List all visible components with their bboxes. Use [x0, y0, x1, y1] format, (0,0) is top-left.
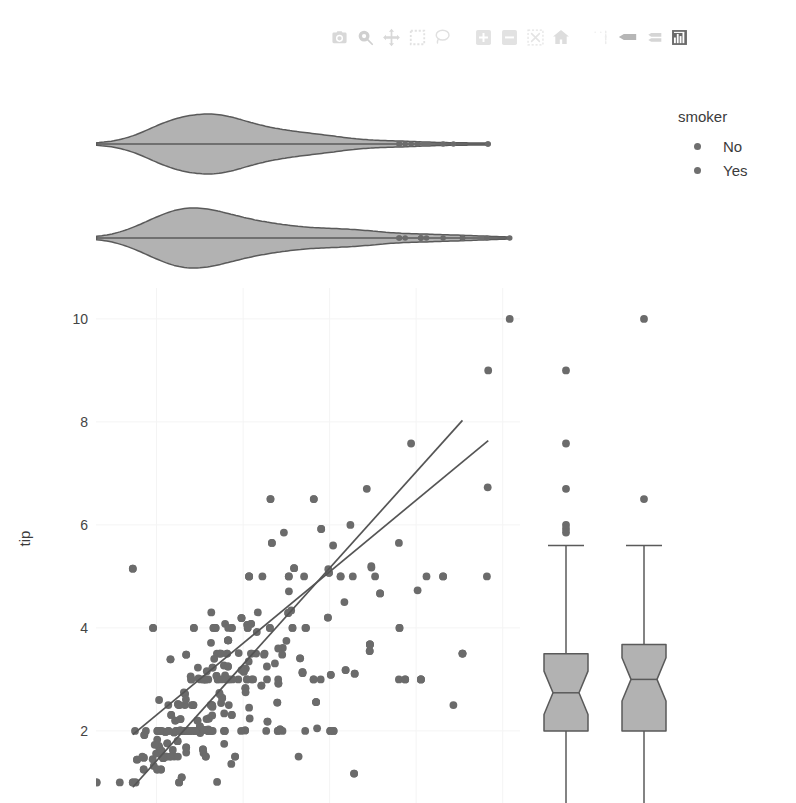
scatter-point [140, 731, 148, 739]
scatter-point [342, 666, 350, 674]
scatter-point [301, 727, 309, 735]
box-select-icon[interactable] [404, 24, 430, 50]
scatter-point [271, 660, 279, 668]
scatter-point [263, 676, 271, 684]
violin-outlier [440, 235, 446, 241]
pan-icon[interactable] [378, 24, 404, 50]
box-svg [526, 288, 686, 803]
reset-axes-icon[interactable] [548, 24, 574, 50]
scatter-point [324, 614, 332, 622]
scatter-point [228, 711, 236, 719]
scatter-point [210, 624, 218, 632]
scatter-point [376, 590, 384, 598]
marginal-box-panel[interactable] [526, 288, 686, 803]
violin-outlier [484, 235, 490, 241]
marginal-violin-panel[interactable] [96, 96, 520, 272]
scatter-point [238, 614, 246, 622]
violin-outlier [402, 235, 408, 241]
violin-outlier [397, 235, 403, 241]
scatter-point [295, 753, 303, 761]
scatter-point [263, 663, 271, 671]
download-plot-icon[interactable] [326, 24, 352, 50]
toggle-bars-icon[interactable] [666, 24, 692, 50]
scatter-point [329, 542, 337, 550]
scatter-point [310, 495, 318, 503]
scatter-point [450, 701, 458, 709]
scatter-point [231, 753, 239, 761]
modebar-group-2 [470, 24, 574, 50]
legend-title: smoker [678, 108, 747, 125]
scatter-point [417, 676, 425, 684]
scatter-point [176, 701, 184, 709]
scatter-point [312, 698, 320, 706]
violin-outlier [397, 141, 403, 147]
plot-root: smoker No Yes 108642 tip [0, 0, 796, 803]
toggle-spike-lines-icon[interactable] [588, 24, 614, 50]
scatter-point [276, 726, 284, 734]
legend-label-no: No [723, 138, 742, 155]
legend-item-no[interactable]: No [678, 134, 747, 158]
violin-outlier [460, 235, 466, 241]
scatter-point [244, 624, 252, 632]
hover-compare-icon[interactable] [614, 24, 640, 50]
violin-outlier [424, 235, 430, 241]
scatter-point [151, 741, 159, 749]
scatter-svg [96, 288, 520, 803]
legend: smoker No Yes [678, 108, 747, 182]
scatter-point [299, 668, 307, 676]
violin-outlier [415, 141, 421, 147]
scatter-point [350, 770, 358, 778]
scatter-plot-panel[interactable] [96, 288, 520, 803]
scatter-point [310, 676, 318, 684]
scatter-point [317, 676, 325, 684]
y-tick-label: 6 [48, 517, 88, 533]
scatter-point [459, 650, 467, 658]
scatter-point [167, 655, 175, 663]
scatter-point [337, 573, 345, 581]
scatter-point [264, 718, 272, 726]
scatter-point [156, 727, 164, 735]
scatter-point [174, 753, 182, 761]
scatter-point [242, 684, 250, 692]
scatter-point [246, 715, 254, 723]
violin-outlier [408, 141, 414, 147]
scatter-point [200, 726, 208, 734]
zoom-icon[interactable] [352, 24, 378, 50]
violin-outlier [507, 235, 513, 241]
hover-closest-icon[interactable] [640, 24, 666, 50]
scatter-point [194, 664, 202, 672]
scatter-point [202, 753, 210, 761]
violin-outlier [451, 141, 457, 147]
y-axis-title: tip [16, 509, 33, 569]
zoom-out-icon[interactable] [496, 24, 522, 50]
scatter-point [218, 676, 226, 684]
scatter-point [351, 670, 359, 678]
scatter-point [224, 663, 232, 671]
legend-item-yes[interactable]: Yes [678, 158, 747, 182]
box-outlier [562, 367, 570, 375]
scatter-point [187, 676, 195, 684]
scatter-point [317, 525, 325, 533]
scatter-point [220, 710, 228, 718]
scatter-point [225, 701, 233, 709]
plotly-modebar[interactable] [326, 24, 692, 50]
autoscale-icon[interactable] [522, 24, 548, 50]
legend-label-yes: Yes [723, 162, 747, 179]
lasso-select-icon[interactable] [430, 24, 456, 50]
scatter-point [129, 565, 137, 573]
scatter-point [258, 682, 266, 690]
scatter-point [267, 495, 275, 503]
scatter-point [296, 654, 304, 662]
scatter-point [313, 724, 321, 732]
scatter-point [347, 521, 355, 529]
scatter-point [191, 727, 199, 735]
scatter-point [235, 649, 243, 657]
scatter-point [300, 573, 308, 581]
zoom-in-icon[interactable] [470, 24, 496, 50]
scatter-point [366, 641, 374, 649]
box-plot [622, 315, 666, 803]
scatter-point [178, 773, 186, 781]
scatter-point [280, 529, 288, 537]
scatter-point [245, 704, 253, 712]
scatter-point [341, 598, 349, 606]
